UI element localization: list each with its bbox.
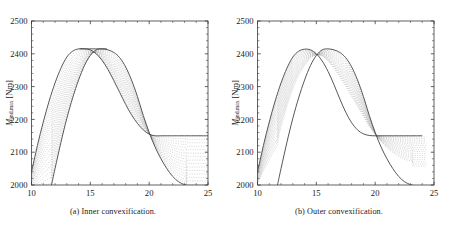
x-tick-label: 20: [145, 188, 154, 198]
plot-a: 10152025200021002200230024002500v [m/s]M…: [0, 0, 226, 200]
y-tick-label: 2000: [10, 180, 27, 190]
x-tick-label: 10: [253, 188, 262, 198]
plot-b-canvas: 10152025200021002200230024002500v [m/s]M…: [226, 0, 452, 200]
y-tick-label: 2400: [236, 49, 253, 59]
x-tick-label: 20: [371, 188, 380, 198]
subfigure-b: 10152025200021002200230024002500v [m/s]M…: [226, 0, 452, 242]
caption-b: (b) Outer convexification.: [226, 207, 452, 216]
figure-container: 10152025200021002200230024002500v [m/s]M…: [0, 0, 453, 242]
x-tick-label: 15: [312, 188, 321, 198]
plot-a-canvas: 10152025200021002200230024002500v [m/s]M…: [0, 0, 226, 200]
y-axis-label: Mind,max [Nm]: [231, 80, 241, 127]
x-tick-label: 10: [27, 188, 36, 198]
x-tick-label: 25: [204, 188, 213, 198]
plot-b: 10152025200021002200230024002500v [m/s]M…: [226, 0, 452, 200]
y-tick-label: 2100: [10, 147, 27, 157]
y-tick-label: 2500: [10, 16, 27, 26]
y-tick-label: 2000: [236, 180, 253, 190]
x-tick-label: 25: [430, 188, 439, 198]
y-tick-label: 2100: [236, 147, 253, 157]
caption-a: (a) Inner convexification.: [0, 207, 226, 216]
x-tick-label: 15: [86, 188, 95, 198]
subfigure-a: 10152025200021002200230024002500v [m/s]M…: [0, 0, 226, 242]
y-tick-label: 2500: [236, 16, 253, 26]
y-axis-label: Mind,max [Nm]: [5, 80, 15, 127]
y-tick-label: 2400: [10, 49, 27, 59]
